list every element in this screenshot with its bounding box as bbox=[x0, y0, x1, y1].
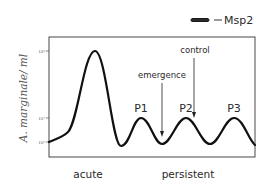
arrow-down-icon bbox=[160, 131, 164, 137]
phase-label-acute: acute bbox=[73, 168, 102, 180]
msp2-blot: Msp2 bbox=[190, 14, 253, 27]
emergence-label: emergence bbox=[138, 70, 186, 80]
y-tick-top: 10⁹ bbox=[38, 49, 45, 54]
phase-label-persistent: persistent bbox=[162, 168, 215, 180]
msp2-label: Msp2 bbox=[224, 14, 253, 27]
peak-label-p3: P3 bbox=[227, 102, 241, 115]
control-label: control bbox=[180, 45, 209, 55]
y-tick-low: 10⁶ bbox=[38, 140, 45, 145]
bacteremia-curve bbox=[49, 51, 255, 146]
peak-label-p1: P1 bbox=[134, 102, 148, 115]
peak-label-p2: P2 bbox=[179, 102, 193, 115]
y-axis: 10⁹ 10⁷ 10⁶ A. marginale/ ml bbox=[17, 49, 49, 145]
arrow-down-icon bbox=[192, 112, 196, 118]
y-axis-label: A. marginale/ ml bbox=[17, 54, 29, 143]
y-tick-mid: 10⁷ bbox=[38, 116, 45, 121]
bacteremia-figure: Msp2 10⁹ 10⁷ 10⁶ A. marginale/ ml P1 P2 … bbox=[0, 0, 266, 187]
